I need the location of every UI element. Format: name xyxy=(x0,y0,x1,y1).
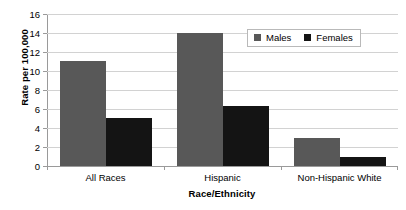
bar-males-all-races xyxy=(60,61,106,166)
y-tick-mark xyxy=(43,52,47,53)
y-tick-mark xyxy=(43,147,47,148)
y-tick-label: 10 xyxy=(18,66,40,77)
legend-label-females: Females xyxy=(316,33,352,43)
x-category-label: Hispanic xyxy=(204,172,240,183)
legend-swatch-females-icon xyxy=(304,34,311,41)
x-tick-mark xyxy=(164,166,165,170)
y-tick-mark xyxy=(43,128,47,129)
gridline xyxy=(47,52,398,53)
x-axis-title: Race/Ethnicity xyxy=(46,188,398,199)
y-tick-label: 4 xyxy=(18,123,40,134)
y-tick-mark xyxy=(43,33,47,34)
y-tick-label: 0 xyxy=(18,161,40,172)
bar-chart: Rate per 100,000 0246810121416 Race/Ethn… xyxy=(0,0,406,210)
chart-legend: Males Females xyxy=(247,29,361,47)
x-category-label: All Races xyxy=(85,172,125,183)
gridline xyxy=(47,166,398,167)
y-tick-mark xyxy=(43,109,47,110)
legend-item-females: Females xyxy=(304,33,352,43)
legend-swatch-males-icon xyxy=(254,34,261,41)
legend-item-males: Males xyxy=(254,33,291,43)
gridline xyxy=(47,14,398,15)
y-tick-label: 2 xyxy=(18,142,40,153)
y-tick-mark xyxy=(43,90,47,91)
y-tick-label: 12 xyxy=(18,47,40,58)
x-tick-mark xyxy=(397,166,398,170)
bar-males-non-hispanic-white xyxy=(294,138,340,166)
y-tick-label: 6 xyxy=(18,104,40,115)
x-tick-mark xyxy=(47,166,48,170)
x-tick-mark xyxy=(281,166,282,170)
bar-females-hispanic xyxy=(223,106,269,166)
y-tick-mark xyxy=(43,14,47,15)
y-tick-label: 8 xyxy=(18,85,40,96)
bar-females-non-hispanic-white xyxy=(340,157,386,167)
y-tick-mark xyxy=(43,71,47,72)
y-tick-label: 16 xyxy=(18,9,40,20)
bar-females-all-races xyxy=(106,118,152,166)
bar-males-hispanic xyxy=(177,33,223,166)
legend-label-males: Males xyxy=(266,33,291,43)
x-category-label: Non-Hispanic White xyxy=(298,172,382,183)
y-tick-label: 14 xyxy=(18,28,40,39)
